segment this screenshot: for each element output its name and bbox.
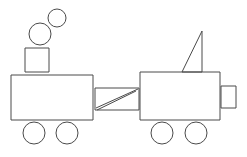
smoke-puff-small-icon bbox=[48, 9, 66, 27]
right-car-wheel-front bbox=[151, 122, 173, 144]
right-car-coupler-box bbox=[221, 86, 236, 108]
left-car-body bbox=[11, 75, 93, 120]
flag-triangle bbox=[182, 31, 202, 72]
smoke-puff-large-icon bbox=[29, 23, 51, 45]
left-car-wheel-front bbox=[23, 122, 45, 144]
coupling-diagonal-upper bbox=[96, 89, 138, 108]
train-scene bbox=[0, 0, 247, 157]
drawing-canvas bbox=[0, 0, 247, 157]
right-car-wheel-rear bbox=[185, 122, 207, 144]
left-car-wheel-rear bbox=[56, 122, 78, 144]
chimney-box bbox=[25, 48, 49, 72]
coupling-diagonal-lower bbox=[97, 91, 136, 110]
right-car-body bbox=[140, 72, 220, 120]
